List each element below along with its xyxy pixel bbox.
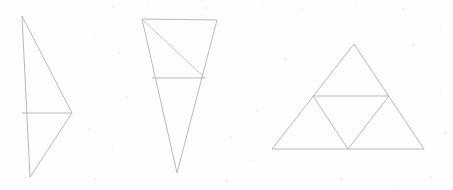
figure-canvas [0,0,453,190]
geometry-figures-svg [0,0,453,190]
figure-2-diagonal [143,20,205,78]
figure-3-outline [272,44,424,149]
figure-2-outline [142,19,217,173]
figure-1-outline [22,16,72,177]
figure-2-inverted-triangle [142,19,217,173]
figure-3-midline-right [348,96,389,149]
figure-3-sierpinski-triangle [272,44,424,149]
figure-1-right-pointing-triangle [22,16,72,177]
figure-3-midline-left [313,96,348,149]
